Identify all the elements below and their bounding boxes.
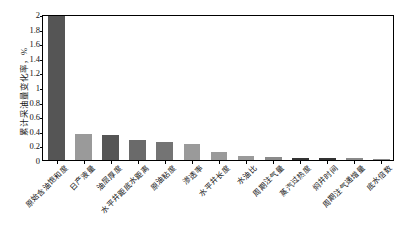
y-tick-label: 0.6 — [14, 113, 40, 122]
y-tick-label: 1.2 — [14, 69, 40, 78]
y-tick-label: 0 — [14, 157, 40, 166]
y-tick-mark — [40, 118, 43, 119]
x-tick-label: 底水倍数 — [364, 162, 394, 192]
y-tick-label: 1 — [14, 84, 40, 93]
y-tick-mark — [40, 31, 43, 32]
y-tick-label: 0.4 — [14, 128, 40, 137]
y-tick-mark — [40, 147, 43, 148]
y-tick-label: 1.8 — [14, 25, 40, 34]
y-tick-label: 0.2 — [14, 142, 40, 151]
y-tick-label: 1.6 — [14, 40, 40, 49]
bar — [102, 135, 119, 160]
y-tick-label: 0.8 — [14, 98, 40, 107]
y-tick-mark — [40, 104, 43, 105]
bar — [156, 142, 173, 160]
bar — [129, 140, 146, 160]
bar-chart: 累计采油量变化率，% 21.81.61.41.210.80.60.40.20 原… — [0, 0, 399, 240]
bar — [184, 144, 201, 160]
y-tick-mark — [40, 16, 43, 17]
y-tick-mark — [40, 133, 43, 134]
y-tick-mark — [40, 74, 43, 75]
bar — [75, 134, 92, 160]
x-tick-label: 水平井距底水距离 — [98, 162, 151, 215]
x-tick-label: 日产液量 — [66, 162, 96, 192]
y-tick-mark — [40, 60, 43, 61]
y-axis-tick-labels: 21.81.61.41.210.80.60.40.20 — [14, 15, 40, 161]
x-tick-label: 原始含油饱和度 — [22, 162, 69, 209]
y-tick-label: 2 — [14, 11, 40, 20]
bar — [211, 152, 228, 160]
y-tick-mark — [40, 89, 43, 90]
x-axis-tick-labels: 原始含油饱和度日产液量油层厚度水平井距底水距离原油粘度渗透率水平井长度水油比周期… — [42, 162, 394, 240]
x-tick-label: 原油粘度 — [147, 162, 177, 192]
y-tick-label: 1.4 — [14, 55, 40, 64]
bars-container — [43, 16, 393, 160]
plot-area — [42, 15, 394, 161]
y-tick-mark — [40, 45, 43, 46]
bar — [48, 16, 65, 160]
